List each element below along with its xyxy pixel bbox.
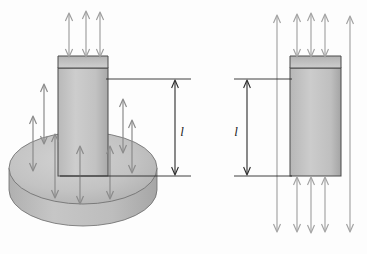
- right-dimension-line: [244, 80, 251, 175]
- diagram-canvas: l: [0, 0, 367, 254]
- left-figure-group: l: [9, 11, 191, 226]
- left-dimension-line: [172, 80, 179, 175]
- column-top-face: [58, 56, 108, 68]
- right-dimension-extension-lines: [234, 79, 292, 176]
- left-dimension-label: l: [180, 124, 184, 139]
- right-figure-group: l: [234, 13, 354, 233]
- block-body: [290, 68, 341, 176]
- stress-distribution-diagram: l: [0, 0, 367, 254]
- block-top-face: [290, 56, 341, 68]
- column-body: [58, 68, 108, 176]
- right-bottom-traction-arrows: [294, 177, 329, 233]
- right-dimension-label: l: [234, 124, 238, 139]
- left-top-traction-arrows: [65, 11, 103, 57]
